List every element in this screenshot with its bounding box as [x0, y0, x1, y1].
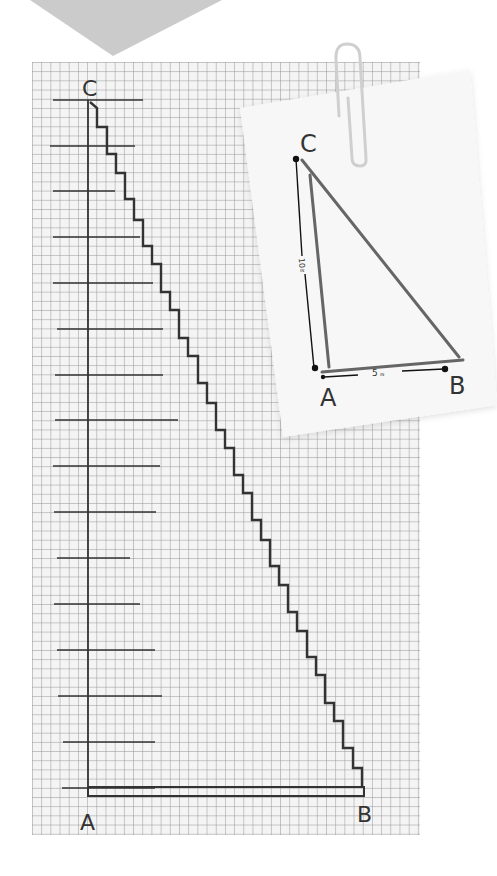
card-label-side-ab-unit: IN [380, 372, 384, 377]
note-card: C A B 10 IN 5 IN [0, 0, 497, 876]
card-label-side-ca-unit: IN [300, 268, 304, 273]
card-point-a [321, 375, 325, 379]
card-point-a-left [312, 365, 318, 371]
card-point-c [293, 156, 299, 162]
card-point-b [442, 366, 448, 372]
card-label-a: A [320, 384, 337, 412]
card-label-c: C [300, 130, 317, 158]
card-label-side-ab-value: 5 [372, 368, 378, 378]
card-label-side-ca-value: 10 [297, 258, 307, 269]
card-label-b: B [449, 372, 465, 400]
